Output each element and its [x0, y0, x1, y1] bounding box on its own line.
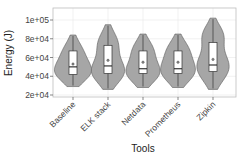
box: [69, 51, 77, 74]
mean-marker: [107, 59, 109, 61]
x-tick-label: ELK stack: [78, 99, 113, 134]
y-tick-label: 4e+04: [25, 71, 49, 81]
y-tick-label: 6e+04: [25, 53, 49, 63]
violin-zipkin: [197, 18, 229, 89]
mean-marker: [212, 58, 214, 60]
x-tick-label: Baseline: [47, 99, 77, 129]
x-tick-label: Netdata: [119, 99, 147, 127]
mean-marker: [72, 63, 74, 65]
y-tick-label: 1e+05: [25, 15, 49, 25]
y-axis: 2e+044e+046e+048e+041e+05: [25, 15, 53, 100]
y-tick-label: 8e+04: [25, 34, 49, 44]
violin-elk-stack: [91, 25, 124, 90]
violin-chart: 2e+044e+046e+048e+041e+05 BaselineELK st…: [0, 0, 249, 157]
violin-netdata: [126, 34, 160, 87]
x-tick-label: Zipkin: [194, 99, 217, 122]
violin-prometheus: [161, 34, 196, 87]
box: [209, 43, 217, 72]
x-tick-label: Prometheus: [143, 99, 182, 138]
violin-baseline: [54, 35, 91, 87]
y-tick-label: 2e+04: [25, 90, 49, 100]
y-axis-title: Energy (J): [3, 30, 14, 76]
x-axis: BaselineELK stackNetdataPrometheusZipkin: [47, 97, 217, 139]
mean-marker: [142, 61, 144, 63]
violins: [54, 18, 229, 89]
x-axis-title: Tools: [131, 143, 154, 154]
mean-marker: [177, 61, 179, 63]
